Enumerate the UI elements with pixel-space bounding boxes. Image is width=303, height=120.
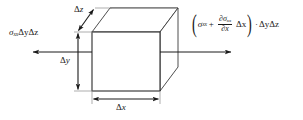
open-paren: ( (192, 14, 197, 35)
left-area-factor: ΔyΔz (18, 27, 38, 37)
right-sigma-subscript: xx (202, 22, 207, 28)
right-stress-label: ( σxx + ∂σxx ∂x Δx ) · ΔyΔz (190, 14, 279, 35)
dim-z-axis: z (80, 4, 84, 14)
right-area-factor: ΔyΔz (259, 20, 279, 29)
fraction-denominator: ∂x (220, 25, 230, 33)
delta-x-term: Δx (236, 20, 246, 29)
numerator-subscript: xx (227, 18, 231, 23)
plus-sign: + (209, 20, 214, 29)
dim-y-axis: y (66, 56, 70, 65)
dim-z-label: Δz (74, 5, 83, 14)
multiplication-dot: · (255, 20, 258, 29)
partial-derivative-fraction: ∂σxx ∂x (218, 15, 232, 33)
fraction-numerator: ∂σxx (218, 15, 232, 24)
dim-x-axis: x (122, 102, 126, 112)
close-paren: ) (247, 14, 252, 35)
dim-x-label: Δx (116, 103, 126, 112)
left-stress-label: σxxΔyΔz (9, 28, 38, 38)
dim-y-label: Δy (60, 56, 70, 65)
numerator-text: ∂σ (219, 14, 227, 23)
cube-front-face (92, 32, 160, 91)
figure-canvas: σxxΔyΔz ( σxx + ∂σxx ∂x Δx ) · ΔyΔz Δz Δ… (0, 0, 303, 120)
